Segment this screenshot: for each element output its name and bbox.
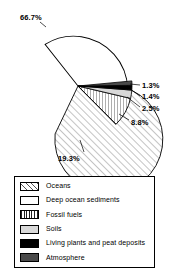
legend-label-fossil-fuels: Fossil fuels	[46, 211, 82, 219]
legend-label-deep-ocean-sediments: Deep ocean sediments	[46, 196, 120, 204]
slice-label-oceans: 66.7%	[20, 14, 42, 22]
legend-label-atmosphere: Atmosphere	[46, 254, 85, 262]
slice-label-atmosphere: 1.3%	[142, 82, 160, 90]
slice-label-living-plants: 1.4%	[142, 93, 160, 101]
legend-label-oceans: Oceans	[46, 182, 71, 190]
slice-label-deep-ocean-sediments: 19.3%	[58, 155, 80, 163]
carbon-reservoirs-pie-figure: 66.7% 19.3% 8.8% 2.5% 1.4% 1.3% Oceans D…	[0, 0, 172, 272]
legend-item-soils: Soils	[15, 222, 154, 236]
slice-label-fossil-fuels: 8.8%	[131, 119, 149, 127]
legend-swatch-soils	[20, 225, 39, 234]
legend-item-oceans: Oceans	[15, 179, 154, 193]
chart-legend: Oceans Deep ocean sediments Fossil fuels…	[14, 176, 155, 268]
legend-label-soils: Soils	[46, 225, 62, 233]
legend-item-fossil-fuels: Fossil fuels	[15, 208, 154, 222]
legend-label-living-plants: Living plants and peat deposits	[46, 239, 145, 247]
legend-item-deep-ocean-sediments: Deep ocean sediments	[15, 193, 154, 207]
legend-swatch-atmosphere	[20, 253, 39, 262]
legend-swatch-deep-ocean-sediments	[20, 196, 39, 205]
legend-item-atmosphere: Atmosphere	[15, 251, 154, 265]
legend-item-living-plants: Living plants and peat deposits	[15, 236, 154, 250]
slice-label-soils: 2.5%	[142, 105, 160, 113]
legend-swatch-fossil-fuels	[20, 210, 39, 219]
legend-swatch-living-plants	[20, 239, 39, 248]
legend-swatch-oceans	[20, 182, 39, 191]
leader-line-oceans	[40, 22, 46, 27]
